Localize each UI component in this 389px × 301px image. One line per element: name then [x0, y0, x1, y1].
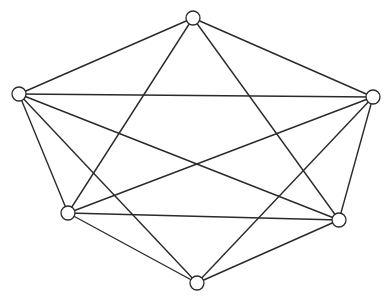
edge-B-C — [19, 94, 373, 97]
edge-A-B — [19, 18, 193, 94]
node-E — [332, 213, 346, 227]
node-D — [61, 206, 75, 220]
edge-E-F — [197, 220, 339, 283]
edge-D-E — [68, 213, 339, 220]
node-A — [186, 11, 200, 25]
edge-A-D — [68, 18, 193, 213]
node-F — [190, 276, 204, 290]
edge-B-D — [19, 94, 68, 213]
node-B — [12, 87, 26, 101]
edges-group — [19, 18, 373, 283]
edge-A-C — [193, 18, 373, 97]
nodes-group — [12, 11, 380, 290]
graph-diagram — [0, 0, 389, 301]
edge-B-E — [19, 94, 339, 220]
node-C — [366, 90, 380, 104]
edge-C-D — [68, 97, 373, 213]
graph-svg — [0, 0, 389, 301]
edge-D-F — [68, 213, 197, 283]
edge-B-F — [19, 94, 197, 283]
